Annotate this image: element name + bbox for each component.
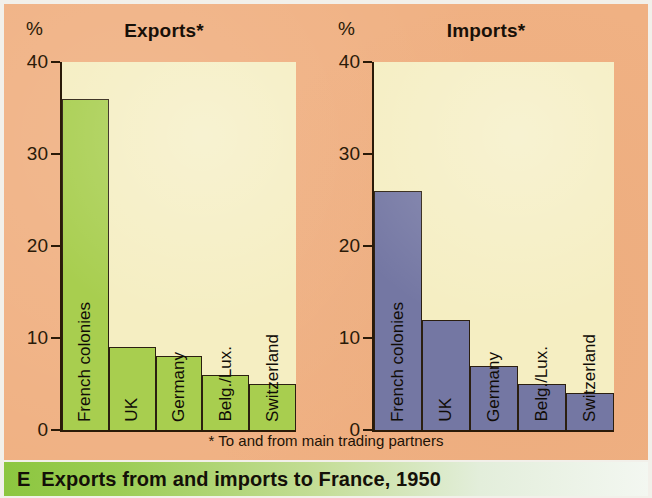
caption-bar: E Exports from and imports to France, 19…: [4, 462, 648, 496]
bar-label-text: French colonies: [388, 302, 408, 422]
chart-imports-plot-area: French coloniesUKGermanyBelg./Lux.Switze…: [372, 62, 614, 432]
y-tick-label: 20: [12, 235, 48, 257]
bar-label-text: Switzerland: [580, 334, 600, 422]
figure-exports-imports-france: Exports* % French coloniesUKGermanyBelg.…: [0, 0, 652, 498]
bar: Switzerland: [566, 393, 614, 430]
chart-imports-bars: French coloniesUKGermanyBelg./Lux.Switze…: [374, 62, 614, 430]
bar-label-text: Belg./Lux.: [216, 346, 236, 422]
y-tick-label: 40: [12, 51, 48, 73]
bar-label-text: UK: [122, 398, 142, 422]
y-tick-mark: [51, 245, 60, 247]
chart-imports-percent-label: %: [338, 18, 355, 40]
chart-exports-title: Exports*: [4, 20, 324, 42]
y-tick-mark: [51, 429, 60, 431]
bar: French colonies: [62, 99, 109, 430]
bar-label-text: French colonies: [75, 302, 95, 422]
y-tick-mark: [363, 337, 372, 339]
y-tick-mark: [51, 153, 60, 155]
bar: UK: [109, 347, 156, 430]
y-tick-label: 10: [12, 327, 48, 349]
y-tick-mark: [363, 245, 372, 247]
y-tick-mark: [51, 61, 60, 63]
y-tick-mark: [363, 61, 372, 63]
chart-exports-plot-area: French coloniesUKGermanyBelg./Lux.Switze…: [60, 62, 296, 432]
bar-label-text: Germany: [169, 352, 189, 422]
caption-letter: E: [17, 468, 30, 491]
caption-text: Exports from and imports to France, 1950: [41, 468, 441, 491]
chart-exports: Exports* % French coloniesUKGermanyBelg.…: [4, 0, 324, 456]
y-tick-label: 10: [324, 327, 360, 349]
chart-exports-bars: French coloniesUKGermanyBelg./Lux.Switze…: [62, 62, 296, 430]
bar: UK: [422, 320, 470, 430]
bar-label-text: Switzerland: [263, 334, 283, 422]
chart-exports-percent-label: %: [26, 18, 43, 40]
y-tick-label: 20: [324, 235, 360, 257]
chart-imports-title: Imports*: [324, 20, 648, 42]
bar: Belg./Lux.: [518, 384, 566, 430]
bar: Germany: [156, 356, 203, 430]
bar-label-text: Germany: [484, 352, 504, 422]
y-tick-mark: [363, 153, 372, 155]
bar: Germany: [470, 366, 518, 430]
y-tick-label: 40: [324, 51, 360, 73]
chart-imports: Imports* % French coloniesUKGermanyBelg.…: [324, 0, 648, 456]
y-tick-label: 30: [324, 143, 360, 165]
footnote: * To and from main trading partners: [0, 432, 652, 449]
bar-label-text: Belg./Lux.: [532, 346, 552, 422]
bar: Switzerland: [249, 384, 296, 430]
bar: Belg./Lux.: [202, 375, 249, 430]
bar-label-text: UK: [436, 398, 456, 422]
y-tick-label: 30: [12, 143, 48, 165]
y-tick-mark: [363, 429, 372, 431]
bar: French colonies: [374, 191, 422, 430]
y-tick-mark: [51, 337, 60, 339]
